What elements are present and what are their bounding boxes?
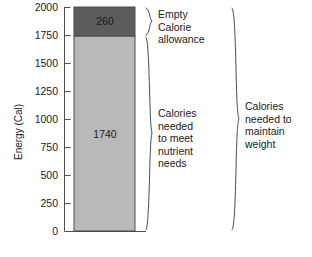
bar-label-empty-calories: 260 — [74, 15, 136, 27]
brace-empty-calorie-allowance — [146, 8, 152, 35]
brace-nutrient-calories — [146, 37, 152, 230]
brace-maintain-weight — [232, 8, 239, 230]
label-empty-calorie-allowance: Empty Calorie allowance — [158, 8, 205, 46]
bar-label-nutrient-calories: 1740 — [74, 128, 136, 140]
y-axis-ticks — [65, 8, 71, 232]
label-calories-maintain-weight: Calories needed to maintain weight — [245, 100, 292, 150]
label-calories-nutrient-needs: Calories needed to meet nutrient needs — [158, 107, 197, 170]
stacked-bar-chart: Energy (Cal) 2000 1750 1500 1250 1000 75… — [0, 0, 312, 257]
